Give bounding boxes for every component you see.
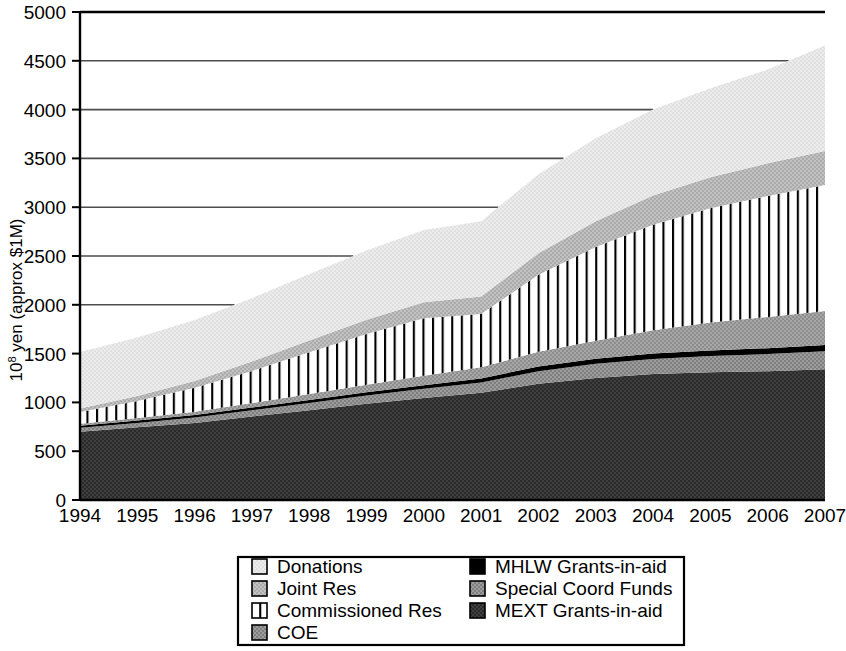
legend-label: Donations — [277, 556, 363, 577]
x-tick-label: 1996 — [173, 505, 215, 526]
y-tick-label: 2000 — [24, 295, 66, 316]
x-tick-label: 1995 — [116, 505, 158, 526]
x-tick-label: 2007 — [804, 505, 846, 526]
x-tick-label: 1997 — [231, 505, 273, 526]
x-tick-label: 1994 — [59, 505, 102, 526]
legend-swatch — [252, 581, 267, 596]
chart-legend: DonationsJoint ResCommissioned ResCOEMHL… — [238, 556, 684, 645]
x-tick-label: 2002 — [517, 505, 559, 526]
y-tick-label: 3000 — [24, 197, 66, 218]
y-tick-label: 3500 — [24, 148, 66, 169]
x-tick-label: 2006 — [747, 505, 789, 526]
legend-swatch — [470, 603, 485, 618]
legend-swatch — [252, 603, 267, 618]
x-tick-label: 2004 — [632, 505, 675, 526]
legend-label: MHLW Grants-in-aid — [495, 556, 667, 577]
x-tick-label: 2000 — [403, 505, 445, 526]
legend-label: Commissioned Res — [277, 600, 442, 621]
x-tick-label: 1998 — [288, 505, 330, 526]
y-axis-title-base: 10 — [7, 363, 26, 382]
x-tick-label: 2001 — [460, 505, 502, 526]
legend-label: MEXT Grants-in-aid — [495, 600, 663, 621]
y-tick-label: 1500 — [24, 344, 66, 365]
legend-swatch — [470, 559, 485, 574]
y-axis-title-rest: yen (approx $1M) — [7, 219, 26, 357]
legend-label: Joint Res — [277, 578, 356, 599]
area-series-group — [80, 45, 825, 500]
legend-label: Special Coord Funds — [495, 578, 672, 599]
legend-swatch — [252, 625, 267, 640]
legend-swatch — [252, 559, 267, 574]
y-tick-label: 1000 — [24, 392, 66, 413]
x-tick-label: 1999 — [345, 505, 387, 526]
stacked-area-chart: 108 yen (approx $1M) 0500100015002000250… — [0, 0, 846, 651]
x-tick-label: 2003 — [575, 505, 617, 526]
legend-label: COE — [277, 622, 318, 643]
y-tick-label: 2500 — [24, 246, 66, 267]
y-tick-label: 4000 — [24, 100, 66, 121]
y-tick-label: 4500 — [24, 51, 66, 72]
y-tick-label: 5000 — [24, 2, 66, 23]
legend-swatch — [470, 581, 485, 596]
x-axis-ticks: 1994199519961997199819992000200120022003… — [59, 505, 846, 526]
y-axis-ticks: 0500100015002000250030003500400045005000 — [24, 2, 80, 511]
x-tick-label: 2005 — [689, 505, 731, 526]
chart-container: 108 yen (approx $1M) 0500100015002000250… — [0, 0, 846, 651]
y-tick-label: 500 — [34, 441, 66, 462]
